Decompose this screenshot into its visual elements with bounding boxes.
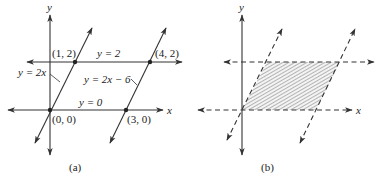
x-axis-label-b: x	[355, 104, 361, 116]
caption-b: (b)	[261, 161, 274, 174]
point-label-4-2: (4, 2)	[155, 47, 179, 60]
point-1-2	[73, 60, 77, 64]
point-label-3-0: (3, 0)	[127, 113, 151, 126]
equation-label-y-0: y = 0	[78, 96, 103, 108]
point-3-0	[124, 108, 128, 112]
shaded-hatch	[240, 60, 344, 112]
point-label-0-0: (0, 0)	[52, 113, 76, 126]
point-0-0	[48, 108, 52, 112]
leader-y-2x	[50, 74, 60, 82]
line-y-equals-2x	[35, 28, 92, 143]
equation-label-y-2: y = 2	[96, 47, 121, 59]
figure: y x (1, 2) (4, 2) (0, 0) (3, 0) y = 2 y …	[0, 0, 376, 178]
leader-y-2x-minus-6	[131, 79, 137, 85]
equation-label-y-2x-minus-6: y = 2x − 6	[83, 73, 131, 85]
point-label-1-2: (1, 2)	[52, 47, 76, 60]
point-4-2	[148, 60, 152, 64]
y-axis-label-b: y	[238, 1, 244, 13]
y-axis-label: y	[46, 1, 52, 13]
panel-b: y x (b)	[198, 1, 374, 174]
caption-a: (a)	[69, 161, 82, 174]
x-axis-label: x	[166, 104, 172, 116]
panel-a: y x (1, 2) (4, 2) (0, 0) (3, 0) y = 2 y …	[8, 1, 182, 174]
line-y-equals-2x-minus-6	[110, 28, 166, 143]
equation-label-y-2x: y = 2x	[17, 66, 46, 78]
